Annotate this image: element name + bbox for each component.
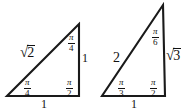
left-triangle-right-angle-label: π 2	[66, 78, 73, 99]
right-triangle-base-label: 1	[131, 98, 137, 110]
fraction: π 2	[66, 78, 73, 99]
right-triangle-top-angle-label: π 6	[152, 27, 159, 48]
fraction-denominator: 2	[66, 89, 73, 98]
left-triangle-base-label: 1	[41, 98, 47, 110]
radicand: 2	[27, 45, 35, 60]
radicand: 3	[173, 48, 181, 63]
fraction-numerator: π	[68, 33, 75, 42]
sqrt-symbol-group: √2	[20, 45, 35, 60]
right-triangle-bottom-left-angle-label: π 3	[118, 78, 125, 99]
fraction-denominator: 4	[68, 44, 75, 53]
fraction: π 2	[150, 78, 157, 99]
right-triangle-hypotenuse-label: 2	[113, 51, 120, 65]
fraction-numerator: π	[118, 78, 125, 87]
left-triangle-top-angle-label: π 4	[68, 33, 75, 54]
fraction-denominator: 3	[118, 89, 125, 98]
fraction-denominator: 6	[152, 38, 159, 47]
left-triangle-vertical-side-label: 1	[82, 52, 88, 64]
right-triangle-vertical-side-label: √3	[166, 48, 181, 63]
fraction: π 4	[24, 78, 31, 99]
left-triangle-hypotenuse-label: √2	[20, 45, 35, 60]
special-triangles-figure: √2 1 1 π 4 π 4 π 2 2 √3 1	[0, 0, 183, 112]
fraction-denominator: 4	[24, 89, 31, 98]
fraction-numerator: π	[24, 78, 31, 87]
left-triangle-bottom-left-angle-label: π 4	[24, 78, 31, 99]
fraction: π 3	[118, 78, 125, 99]
fraction-numerator: π	[66, 78, 73, 87]
fraction-numerator: π	[150, 78, 157, 87]
sqrt-symbol-group: √3	[166, 48, 181, 63]
right-triangle-right-angle-label: π 2	[150, 78, 157, 99]
fraction: π 4	[68, 33, 75, 54]
fraction: π 6	[152, 27, 159, 48]
fraction-denominator: 2	[150, 89, 157, 98]
fraction-numerator: π	[152, 27, 159, 36]
